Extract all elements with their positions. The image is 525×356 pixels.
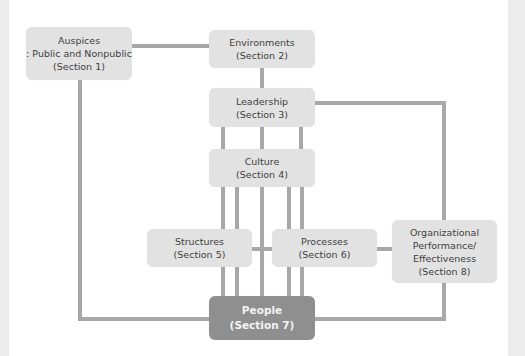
node-performance: Organizational Performance/ Effectivenes…: [392, 220, 497, 283]
node-leadership: Leadership (Section 3): [209, 88, 315, 127]
node-environments-line2: (Section 2): [236, 49, 288, 62]
node-culture-line2: (Section 4): [236, 168, 288, 181]
node-processes: Processes (Section 6): [272, 229, 377, 267]
connector-leadership-right: [315, 101, 446, 105]
connector-culture-people-3: [260, 187, 264, 296]
node-auspices: Auspices : Public and Nonpublic (Section…: [26, 27, 132, 80]
node-structures: Structures (Section 5): [147, 229, 252, 267]
connector-right-down-bottom: [442, 283, 446, 321]
node-environments: Environments (Section 2): [209, 30, 315, 68]
connector-leadership-culture-2: [260, 127, 264, 149]
connector-auspices-environments: [132, 44, 209, 48]
connector-environments-leadership: [260, 68, 264, 88]
node-culture-line1: Culture: [245, 155, 280, 168]
node-processes-line1: Processes: [301, 235, 348, 248]
connector-auspices-people: [78, 317, 209, 321]
node-people: People (Section 7): [209, 296, 315, 340]
node-structures-line1: Structures: [175, 235, 224, 248]
node-culture: Culture (Section 4): [209, 149, 315, 187]
connector-structures-processes: [252, 247, 272, 251]
node-performance-line3: Effectiveness: [413, 252, 476, 265]
node-performance-line2: Performance/: [413, 239, 476, 252]
node-structures-line2: (Section 5): [174, 248, 226, 261]
node-people-line1: People: [242, 303, 282, 318]
node-leadership-line1: Leadership: [236, 95, 288, 108]
node-environments-line1: Environments: [229, 36, 295, 49]
node-auspices-line3: (Section 1): [53, 60, 105, 73]
node-auspices-line1: Auspices: [58, 34, 100, 47]
node-auspices-line2: : Public and Nonpublic: [26, 47, 132, 60]
node-performance-line4: (Section 8): [419, 265, 471, 278]
connector-right-down-top: [442, 101, 446, 220]
right-margin-band: [508, 0, 525, 356]
node-performance-line1: Organizational: [410, 226, 479, 239]
node-processes-line2: (Section 6): [299, 248, 351, 261]
connector-processes-performance: [377, 247, 392, 251]
connector-leadership-culture-3: [299, 127, 303, 149]
connector-auspices-down: [78, 80, 82, 321]
left-margin-band: [0, 0, 9, 356]
node-people-line2: (Section 7): [230, 318, 295, 333]
connector-performance-people: [315, 317, 446, 321]
node-leadership-line2: (Section 3): [236, 108, 288, 121]
connector-leadership-culture-1: [221, 127, 225, 149]
